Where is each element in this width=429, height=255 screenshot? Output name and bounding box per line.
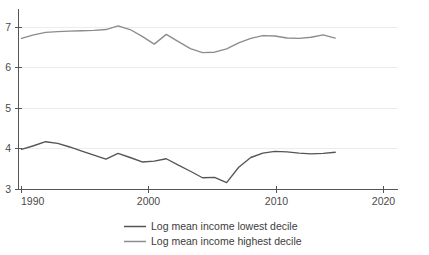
series-line-highest-decile: [22, 26, 336, 53]
legend: Log mean income lowest decile Log mean i…: [124, 220, 302, 247]
y-tick-label-3: 3: [5, 183, 11, 195]
series-line-lowest-decile: [22, 142, 336, 183]
x-tick-labels: 1990 2000 2010 2020: [21, 195, 395, 207]
legend-label-lowest-decile: Log mean income lowest decile: [151, 220, 298, 232]
series-group: [22, 26, 336, 183]
legend-label-highest-decile: Log mean income highest decile: [151, 235, 302, 247]
y-tick-label-7: 7: [5, 21, 11, 33]
line-chart: 7 6 5 4 3 1990 2000 2010 2020 Log mean i…: [0, 0, 429, 255]
gridlines: [19, 28, 399, 149]
x-tick-label-2000: 2000: [137, 195, 161, 207]
y-tick-label-4: 4: [5, 142, 11, 154]
axes: [19, 9, 399, 190]
x-tick-label-2010: 2010: [265, 195, 289, 207]
y-tick-label-6: 6: [5, 61, 11, 73]
y-tick-labels: 7 6 5 4 3: [5, 21, 11, 195]
x-tick-label-2020: 2020: [372, 195, 396, 207]
y-tick-label-5: 5: [5, 102, 11, 114]
chart-canvas: 7 6 5 4 3 1990 2000 2010 2020 Log mean i…: [0, 0, 429, 255]
x-tick-label-1990: 1990: [21, 195, 45, 207]
